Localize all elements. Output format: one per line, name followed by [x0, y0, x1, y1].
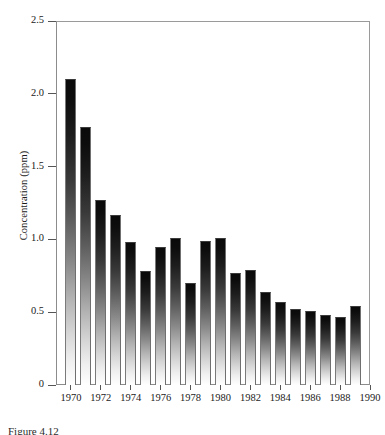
bar-1972	[95, 200, 106, 385]
bar-1976	[155, 247, 166, 385]
bar-1979	[200, 241, 211, 385]
bar-1989	[350, 306, 361, 385]
bar-1986	[305, 311, 316, 385]
bar-1985	[290, 309, 301, 385]
bar-1987	[320, 315, 331, 385]
bar-1983	[260, 292, 271, 385]
bar-1973	[110, 215, 121, 385]
figure-caption: Figure 4.12	[8, 425, 380, 435]
bars-layer	[0, 0, 385, 435]
bar-1974	[125, 242, 136, 385]
bar-1977	[170, 238, 181, 385]
figure-panel: Concentration (ppm) 2.52.01.51.00.501970…	[0, 0, 385, 435]
bar-1984	[275, 302, 286, 385]
bar-1971	[80, 127, 91, 385]
bar-1980	[215, 238, 226, 385]
bar-1988	[335, 317, 346, 385]
bar-1970	[65, 79, 76, 385]
bar-1975	[140, 271, 151, 385]
bar-1978	[185, 283, 196, 385]
bar-1982	[245, 270, 256, 385]
bar-1981	[230, 273, 241, 385]
